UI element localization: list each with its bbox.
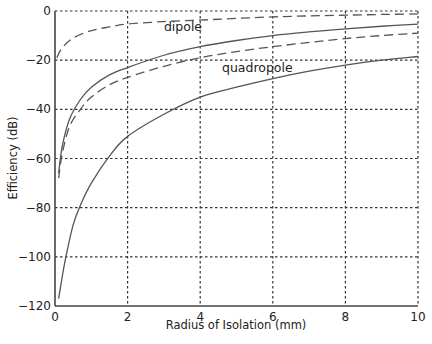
- y-tick-label: −100: [18, 250, 51, 264]
- x-tick-label: 2: [124, 310, 132, 324]
- x-tick-label: 10: [410, 310, 425, 324]
- y-tick-label: −60: [26, 152, 51, 166]
- x-tick-label: 0: [51, 310, 59, 324]
- data-series: [57, 14, 418, 299]
- tick-labels: 02468100−20−40−60−80−100−120: [18, 4, 426, 324]
- y-tick-label: −20: [26, 53, 51, 67]
- y-tick-label: 0: [43, 4, 51, 18]
- grid-lines: [55, 11, 418, 306]
- series-line-3: [59, 33, 418, 178]
- series-line-2: [59, 24, 418, 173]
- y-tick-label: −120: [18, 299, 51, 313]
- x-tick-label: 8: [342, 310, 350, 324]
- annotation-dipole: dipole: [164, 19, 202, 34]
- y-axis-label: Efficiency (dB): [6, 116, 20, 199]
- y-tick-label: −80: [26, 201, 51, 215]
- series-line-4: [59, 56, 418, 298]
- annotation-quadropole: quadropole: [222, 60, 293, 75]
- y-tick-label: −40: [26, 102, 51, 116]
- x-axis-label: Radius of Isolation (mm): [166, 318, 307, 332]
- efficiency-chart: 02468100−20−40−60−80−100−120 Radius of I…: [0, 0, 432, 344]
